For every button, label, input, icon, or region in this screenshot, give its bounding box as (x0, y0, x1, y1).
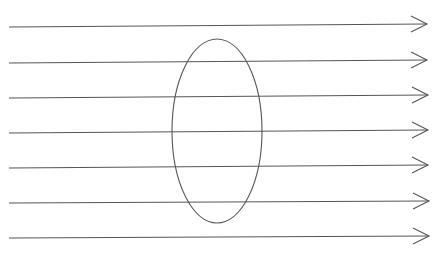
field-line-arrow (9, 87, 428, 103)
field-line-arrow (9, 193, 429, 209)
field-loop-diagram (0, 0, 440, 253)
field-line-arrow (9, 52, 427, 68)
field-line-arrow (9, 122, 428, 138)
field-lines (9, 16, 429, 244)
field-line-arrow (9, 16, 427, 32)
field-line-arrow (9, 157, 428, 173)
field-line-arrow (9, 228, 429, 244)
